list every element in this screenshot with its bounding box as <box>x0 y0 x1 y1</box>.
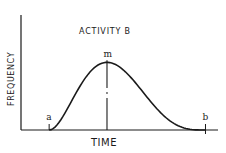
y-axis-label: FREQUENCY <box>7 52 16 106</box>
chart-title: ACTIVITY B <box>79 27 131 36</box>
distribution-curve <box>49 62 205 130</box>
marker-label-a: a <box>46 112 52 122</box>
marker-label-b: b <box>202 112 208 122</box>
x-axis-label: TIME <box>90 137 117 148</box>
chart: ACTIVITY B FREQUENCY TIME amb <box>0 0 226 153</box>
marker-label-m: m <box>103 49 112 59</box>
